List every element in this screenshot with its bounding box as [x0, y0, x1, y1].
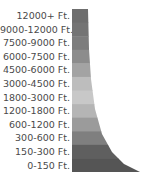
elevation-legend: 12000+ Ft. 9000-12000 Ft. 7500-9000 Ft. …	[0, 0, 143, 182]
legend-label: 12000+ Ft.	[0, 9, 71, 23]
legend-labels: 12000+ Ft. 9000-12000 Ft. 7500-9000 Ft. …	[0, 9, 71, 172]
legend-color-band	[72, 36, 142, 50]
legend-color-band	[72, 50, 142, 64]
legend-color-band	[72, 63, 142, 77]
legend-label: 1200-1800 Ft.	[0, 104, 71, 118]
legend-label: 1800-3000 Ft.	[0, 91, 71, 105]
legend-color-band	[72, 77, 142, 91]
legend-color-band	[72, 9, 142, 23]
legend-label: 9000-12000 Ft.	[0, 23, 71, 37]
legend-label: 3000-4500 Ft.	[0, 77, 71, 91]
legend-color-band	[72, 91, 142, 105]
legend-color-band	[72, 158, 142, 172]
legend-label: 0-150 Ft.	[0, 159, 71, 173]
legend-label: 150-300 Ft.	[0, 145, 71, 159]
legend-color-band	[72, 104, 142, 118]
legend-label: 300-600 Ft.	[0, 131, 71, 145]
legend-color-band	[72, 118, 142, 132]
legend-color-band	[72, 131, 142, 145]
legend-color-band	[72, 23, 142, 37]
legend-label: 7500-9000 Ft.	[0, 36, 71, 50]
legend-label: 4500-6000 Ft.	[0, 63, 71, 77]
legend-color-band	[72, 145, 142, 159]
legend-label: 600-1200 Ft.	[0, 118, 71, 132]
elevation-color-ramp	[72, 9, 142, 172]
ramp-shape	[72, 9, 142, 172]
legend-label: 6000-7500 Ft.	[0, 50, 71, 64]
